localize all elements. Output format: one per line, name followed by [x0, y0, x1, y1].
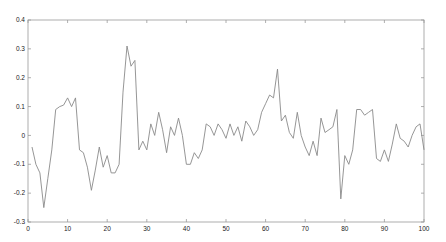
- x-tick-label: 70: [302, 225, 310, 232]
- y-tick-label: -0.3: [14, 218, 26, 225]
- plot-frame: [28, 20, 424, 222]
- y-tick-label: 0.4: [16, 16, 25, 23]
- y-tick-label: 0.3: [16, 45, 25, 52]
- x-tick-label: 50: [222, 225, 230, 232]
- x-tick-label: 80: [341, 225, 349, 232]
- x-tick-label: 60: [262, 225, 270, 232]
- line-chart: 0102030405060708090100 -0.3-0.2-0.100.10…: [0, 0, 446, 242]
- x-tick-label: 100: [419, 225, 430, 232]
- y-tick-label: 0.2: [16, 74, 25, 81]
- y-tick-label: 0: [21, 132, 25, 139]
- x-tick-label: 10: [64, 225, 72, 232]
- y-tick-label: 0.1: [16, 103, 25, 110]
- x-tick-label: 20: [104, 225, 112, 232]
- y-tick-label: -0.2: [14, 189, 26, 196]
- x-tick-label: 40: [183, 225, 191, 232]
- x-tick-label: 30: [143, 225, 151, 232]
- x-tick-label: 0: [26, 225, 30, 232]
- y-tick-label: -0.1: [14, 160, 26, 167]
- x-tick-label: 90: [381, 225, 389, 232]
